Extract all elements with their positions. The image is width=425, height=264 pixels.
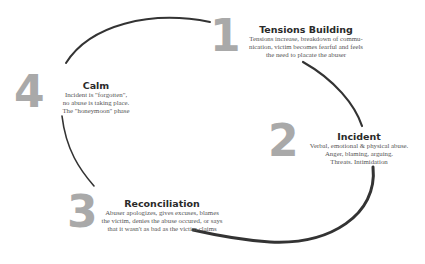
stage-number-3: 3 (67, 190, 96, 234)
stage-description-line: Abuser apologizes, gives excuses, blames (98, 209, 226, 217)
stage-title: Incident (296, 131, 422, 142)
cycle-of-abuse-diagram: 1 Tensions Building Tensions increase, b… (0, 0, 425, 264)
stage-description-line: nication, victim becomes fearful and fee… (236, 43, 376, 51)
stage-description-line: Incident is "forgotten", (56, 91, 136, 99)
stage-description-line: that it wasn't as bad as the victim clai… (98, 225, 226, 233)
stage-description-line: the need to placate the abuser (236, 51, 376, 59)
stage-title: Calm (56, 80, 136, 91)
stage-title: Reconciliation (98, 198, 226, 209)
stage-tensions-building: Tensions Building Tensions increase, bre… (236, 24, 376, 59)
stage-description-line: Tensions increase, breakdown of commu- (236, 35, 376, 43)
stage-description-line: The "honeymoon" phase (56, 107, 136, 115)
stage-incident: Incident Verbal, emotional & physical ab… (296, 131, 422, 166)
stage-calm: Calm Incident is "forgotten", no abuse i… (56, 80, 136, 115)
stage-description-line: Threats. Intimidation (296, 158, 422, 166)
stage-reconciliation: Reconciliation Abuser apologizes, gives … (98, 198, 226, 233)
arc-3-to-4 (62, 116, 94, 186)
arc-1-to-2 (303, 62, 362, 126)
stage-description-line: Anger, blaming, arguing. (296, 150, 422, 158)
stage-description-line: no abuse is taking place. (56, 99, 136, 107)
stage-number-1: 1 (210, 14, 239, 58)
stage-number-4: 4 (14, 70, 43, 114)
stage-description-line: the victim, denies the abuse occured, or… (98, 217, 226, 225)
arc-4-to-1 (66, 18, 210, 63)
stage-description-line: Verbal, emotional & physical abuse. (296, 142, 422, 150)
stage-title: Tensions Building (236, 24, 376, 35)
stage-number-2: 2 (268, 119, 297, 163)
